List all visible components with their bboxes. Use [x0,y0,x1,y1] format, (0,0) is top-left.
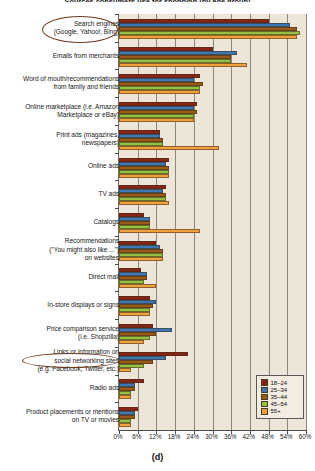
y-tick-mark [115,42,119,43]
gridline [306,14,307,430]
legend-label: 35–44 [271,394,288,400]
legend-item: 25–34 [261,386,300,393]
bar [119,229,200,233]
gridline [250,14,251,430]
bar [119,174,169,178]
y-tick-mark [115,375,119,376]
category-label: Catalogs [1,218,119,226]
bar [119,340,144,344]
y-tick-mark [115,208,119,209]
bar [119,423,131,427]
category-label: Emails from merchants [1,52,119,60]
y-tick-mark [115,264,119,265]
category-label: In-store displays or signs [1,301,119,309]
category-label-line: TV ads [1,190,119,198]
category-label-line: Emails from merchants [1,52,119,60]
category-label-line: Product placements or mentions [1,408,119,416]
bar [119,368,131,372]
y-tick-mark [115,180,119,181]
category-label-line: Price comparison service [1,325,119,333]
category-label-line: newspapers) [1,139,119,147]
y-tick-mark [115,402,119,403]
category-label-line: Online ads [1,162,119,170]
legend-label: 55+ [271,408,281,414]
category-label-line: Search engines [1,20,119,28]
legend-label: 25–34 [271,387,288,393]
y-tick-mark [115,125,119,126]
category-label-line: Word of mouth/recommendations [1,75,119,83]
gridline [269,14,270,430]
category-label-line: on TV or movies [1,416,119,424]
legend: 18–2425–3435–4445–5455+ [256,375,304,419]
legend-swatch-icon [261,408,268,415]
bar [119,90,200,94]
category-label-line: Recommendations [1,237,119,245]
legend-label: 45–54 [271,401,288,407]
category-label-line: Direct mail [1,273,119,281]
category-label: Print ads (magazines,newspapers) [1,131,119,147]
category-label: Price comparison service(i.e. Shopzilla) [1,325,119,341]
category-label-line: Marketplace or eBay) [1,111,119,119]
y-tick-mark [115,153,119,154]
category-label-line: social networking sites [1,357,119,365]
gridline [231,14,232,430]
y-tick-mark [115,291,119,292]
gridline [287,14,288,430]
legend-item: 35–44 [261,393,300,400]
category-label-line: (i.e. Shopzilla) [1,333,119,341]
legend-swatch-icon [261,387,268,394]
category-label-line: In-store displays or signs [1,301,119,309]
category-label-line: Links or information on [1,348,119,356]
bar [119,201,169,205]
y-tick-mark [115,69,119,70]
gridline [213,14,214,430]
category-label: Online ads [1,162,119,170]
bar [119,395,131,399]
bar [119,146,219,150]
category-label-line: from family and friends [1,83,119,91]
x-axis-line [118,430,306,431]
category-label: TV ads [1,190,119,198]
legend-swatch-icon [261,394,268,401]
category-label: Recommendations("You might also like ...… [1,237,119,262]
x-tick-label: 60% [294,433,315,440]
y-tick-mark [115,14,119,15]
category-label-line: Print ads (magazines, [1,131,119,139]
bar [119,257,163,261]
category-label: Word of mouth/recommendationsfrom family… [1,75,119,91]
bar [119,118,194,122]
category-label: Direct mail [1,273,119,281]
category-label-line: on websites [1,254,119,262]
y-tick-mark [115,97,119,98]
category-label: Links or information onsocial networking… [1,348,119,373]
category-label-line: (Google, Yahoo!, Bing) [1,28,119,36]
category-label: Product placements or mentionson TV or m… [1,408,119,424]
legend-item: 18–24 [261,379,300,386]
category-label-line: Radio ads [1,384,119,392]
legend-swatch-icon [261,401,268,408]
bar [119,35,297,39]
category-label: Online marketplace (i.e. AmazonMarketpla… [1,103,119,119]
legend-item: 45–54 [261,401,300,408]
chart-title: Sources consumers use for shopping (by a… [0,0,315,2]
category-label: Search engines(Google, Yahoo!, Bing) [1,20,119,36]
legend-swatch-icon [261,379,268,386]
figure-caption: (d) [0,452,315,462]
category-label: Radio ads [1,384,119,392]
bar [119,312,150,316]
y-tick-mark [115,319,119,320]
bar [119,63,247,67]
category-label-line: Online marketplace (i.e. Amazon [1,103,119,111]
plot-area [118,14,306,430]
legend-item: 55+ [261,408,300,415]
category-label-line: ("You might also like ...") [1,246,119,254]
category-label-line: (e.g. Facebook, Twitter, etc.) [1,365,119,373]
category-label-line: Catalogs [1,218,119,226]
figure-panel-d: Sources consumers use for shopping (by a… [0,0,315,471]
bar [119,284,156,288]
legend-label: 18–24 [271,380,288,386]
